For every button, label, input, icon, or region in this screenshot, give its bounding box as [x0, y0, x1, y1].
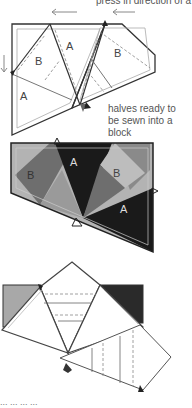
folded-block-diagram	[2, 262, 171, 392]
svg-text:B: B	[27, 169, 34, 181]
svg-text:A: A	[120, 203, 128, 215]
label-b: B	[114, 47, 121, 59]
caption-bottom-cutoff: ... ... ... ...	[0, 396, 38, 408]
label-a: A	[66, 40, 74, 52]
caption-halves-ready: halves ready to be sewn into a block	[108, 103, 187, 139]
svg-text:A: A	[70, 156, 78, 168]
shaded-block-diagram: A B B A	[11, 138, 158, 252]
label-a: A	[20, 90, 28, 102]
label-b: B	[35, 55, 42, 67]
svg-text:B: B	[113, 167, 120, 179]
